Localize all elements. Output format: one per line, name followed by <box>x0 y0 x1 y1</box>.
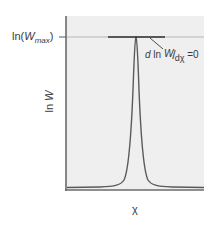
wmax-label-var: W <box>24 30 34 42</box>
wmax-label-suffix: ) <box>50 30 54 42</box>
wmax-label-subscript: max <box>35 36 50 45</box>
wmax-tick-label: ln(Wmax) <box>12 31 53 42</box>
diagram-figure: ln(Wmax) ln W χ d ln W/dχ =0 <box>0 0 216 227</box>
annotation-ln: ln <box>151 49 164 60</box>
wmax-label-prefix: ln( <box>12 30 24 42</box>
y-axis-label-prefix: ln <box>43 104 55 113</box>
x-axis-label: χ <box>132 204 138 215</box>
y-axis-label: ln W <box>44 90 55 112</box>
y-axis-label-var: W <box>43 90 55 100</box>
derivative-annotation: d ln W/dχ =0 <box>145 48 199 60</box>
annotation-denominator: dχ <box>175 53 185 63</box>
annotation-equals-zero: =0 <box>184 49 198 60</box>
